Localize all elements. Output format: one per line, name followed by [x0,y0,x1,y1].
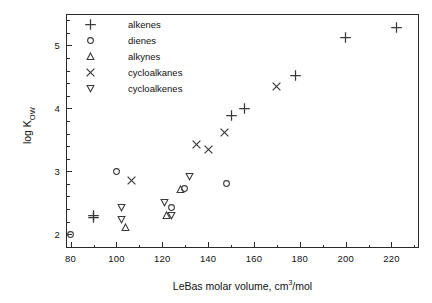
x-tick [231,245,232,249]
y-tick-label: 3 [40,166,60,177]
cross-icon [82,66,110,79]
y-tick [66,33,70,34]
legend-item-cycloalkenes: cycloalkenes [82,81,182,95]
legend-marker-glyph [84,34,97,47]
x-tick [369,245,370,249]
data-point-alkenes [289,69,302,82]
y-tick-label: 2 [40,229,60,240]
y-axis-label: log KOW [21,83,36,169]
x-tick [208,242,209,248]
data-point-alkenes [339,31,352,44]
legend-label: dienes [128,35,156,46]
x-tick [414,245,415,249]
data-point-cycloalkanes [202,143,215,156]
circle-icon [82,34,110,47]
data-point-cycloalkenes [165,209,178,222]
data-point-dienes [220,177,233,190]
data-point-cycloalkanes [218,126,231,139]
legend-marker-glyph [84,66,97,79]
legend-item-alkynes: alkynes [82,49,182,63]
y-tick [66,134,70,135]
x-axis-label: LeBas molar volume, cm3/mol [66,279,419,292]
data-point-cycloalkenes [183,170,196,183]
data-point-cycloalkanes [125,174,138,187]
x-tick [71,242,72,248]
legend-label: alkynes [128,51,160,62]
data-point-dienes [64,228,77,241]
data-point-cycloalkenes [115,201,128,214]
x-tick-label: 120 [154,253,170,264]
y-axis-label-subscript: OW [28,107,37,120]
x-tick [116,242,117,248]
y-tick [66,184,70,185]
data-point-alkynes [174,183,187,196]
y-tick [66,83,70,84]
y-tick [66,71,70,72]
legend-label: cycloalkenes [128,83,182,94]
triangle-down-icon [82,82,110,95]
figure: 801001201401601802002202345 alkenesdiene… [0,0,432,303]
y-tick [66,20,70,21]
y-tick [66,108,72,109]
x-tick [94,245,95,249]
legend-label: cycloalkanes [128,67,182,78]
data-point-cycloalkenes [115,213,128,226]
x-tick-label: 180 [292,253,308,264]
x-tick [277,245,278,249]
y-tick [66,159,70,160]
legend-item-alkenes: alkenes [82,17,182,31]
x-tick [254,242,255,248]
x-axis-label-suffix: /mol [292,280,312,292]
x-tick-label: 140 [200,253,216,264]
data-point-cycloalkenes [158,196,171,209]
y-axis-label-prefix: log K [21,120,33,144]
y-tick [66,121,70,122]
x-tick-label: 220 [383,253,399,264]
legend-label: alkenes [128,19,161,30]
y-tick [66,45,72,46]
x-tick-label: 100 [108,253,124,264]
legend: alkenesdienesalkynescycloalkanescycloalk… [82,17,182,95]
y-tick [66,58,70,59]
y-tick [66,209,70,210]
y-tick [66,96,70,97]
legend-item-dienes: dienes [82,33,182,47]
x-tick-label: 80 [65,253,76,264]
triangle-up-icon [82,50,110,63]
data-point-alkenes [390,21,403,34]
x-tick [139,245,140,249]
y-tick [66,171,72,172]
x-tick-label: 200 [337,253,353,264]
legend-marker-glyph [84,18,97,31]
y-tick [66,247,70,248]
y-tick [66,146,70,147]
y-tick [66,196,70,197]
x-tick [185,245,186,249]
legend-marker-glyph [84,82,97,95]
y-tick-label: 5 [40,40,60,51]
legend-item-cycloalkanes: cycloalkanes [82,65,182,79]
legend-marker-glyph [84,50,97,63]
y-tick [66,222,70,223]
x-tick [162,242,163,248]
y-tick-label: 4 [40,103,60,114]
x-tick [391,242,392,248]
data-point-alkenes [225,109,238,122]
x-tick-label: 160 [246,253,262,264]
data-point-dienes [110,165,123,178]
data-point-alkenes [238,102,251,115]
data-point-cycloalkanes [270,80,283,93]
x-tick [323,245,324,249]
x-tick [300,242,301,248]
plus-icon [82,18,110,31]
x-axis-label-prefix: LeBas molar volume, cm [173,280,289,292]
data-point-alkenes [87,211,100,224]
x-tick [346,242,347,248]
